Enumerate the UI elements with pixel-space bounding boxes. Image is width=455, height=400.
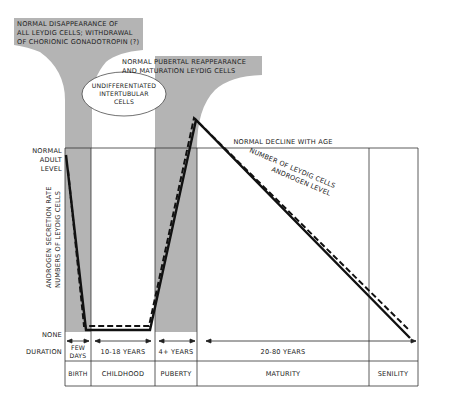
stage-maturity: MATURITY bbox=[266, 370, 301, 378]
birth-callout-line-2: ALL LEYDIG CELLS; WITHDRAWAL bbox=[17, 29, 133, 37]
puberty-callout-line-2: AND MATURATION LEYDIG CELLS bbox=[122, 67, 235, 75]
puberty-shade bbox=[155, 148, 197, 332]
y-top-label-3: LEVEL bbox=[41, 165, 62, 173]
maturity-callout: NORMAL DECLINE WITH AGE bbox=[233, 138, 332, 146]
duration-maturity: 20-80 YEARS bbox=[261, 348, 306, 356]
birth-callout-line-1: NORMAL DISAPPEARANCE OF bbox=[17, 20, 118, 28]
childhood-callout-line-2: INTERTUBULAR bbox=[99, 90, 149, 97]
puberty-callout-line-1: NORMAL PUBERTAL REAPPEARANCE bbox=[122, 58, 246, 66]
leydig-cells-curve bbox=[66, 120, 410, 338]
leydig-curve-label: NUMBER OF LEYDIG CELLS bbox=[248, 146, 336, 190]
birth-callout-line-3: OF CHORIONIC GONADOTROPIN (?) bbox=[17, 38, 139, 46]
childhood-callout-line-3: CELLS bbox=[114, 98, 134, 105]
duration-birth-2: DAYS bbox=[70, 352, 87, 359]
androgen-level-curve bbox=[68, 118, 409, 330]
y-axis-title-2: NUMBERS OF LEYDIG CELLS bbox=[54, 191, 62, 288]
stage-senility: SENILITY bbox=[378, 370, 409, 378]
stage-childhood: CHILDHOOD bbox=[102, 370, 144, 378]
y-top-label-1: NORMAL bbox=[32, 147, 62, 155]
stage-puberty: PUBERTY bbox=[160, 370, 192, 378]
duration-row-label: DURATION bbox=[26, 348, 62, 356]
y-axis-title-1: ANDROGEN SECRETION RATE bbox=[45, 186, 53, 288]
y-bottom-label: NONE bbox=[42, 331, 62, 339]
duration-childhood: 10-18 YEARS bbox=[101, 348, 146, 356]
duration-birth-1: FEW bbox=[71, 344, 85, 351]
y-top-label-2: ADULT bbox=[40, 156, 63, 164]
childhood-callout-line-1: UNDIFFERENTIATED bbox=[92, 82, 157, 89]
stage-birth: BIRTH bbox=[68, 370, 87, 377]
duration-puberty: 4+ YEARS bbox=[159, 348, 194, 356]
leydig-cell-diagram: NORMAL DISAPPEARANCE OF ALL LEYDIG CELLS… bbox=[0, 0, 455, 400]
